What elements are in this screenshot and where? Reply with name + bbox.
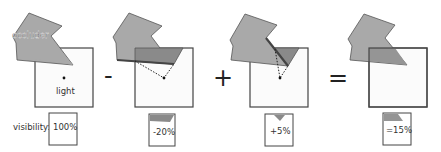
minus-operator: - — [104, 62, 113, 90]
visibility-diagram: occluder light - + = visibility: 100% — [0, 0, 441, 152]
visibility-label: visibility: — [13, 122, 50, 132]
light-label: light — [56, 86, 76, 96]
visibility-value: =15% — [386, 125, 412, 135]
light-point — [63, 77, 66, 80]
occluder-label: occluder — [12, 30, 49, 40]
visibility-box-subtract: -20% — [149, 114, 175, 146]
panel-full: occluder light — [12, 13, 93, 107]
light-point — [279, 77, 282, 80]
equals-operator: = — [328, 64, 348, 92]
plus-operator: + — [213, 64, 233, 92]
panel-result — [348, 14, 427, 107]
visibility-value: -20% — [153, 127, 175, 137]
light-point — [163, 77, 166, 80]
visibility-clip — [150, 115, 174, 122]
panel-add — [230, 14, 308, 107]
occluder-shape — [230, 14, 288, 66]
visibility-box-add: +5% — [265, 114, 293, 146]
panel-subtract — [113, 13, 193, 107]
visibility-value: 100% — [53, 122, 77, 132]
visibility-value: +5% — [270, 126, 291, 136]
visibility-box-full: 100% — [49, 113, 77, 145]
visibility-box-result: =15% — [383, 113, 412, 145]
